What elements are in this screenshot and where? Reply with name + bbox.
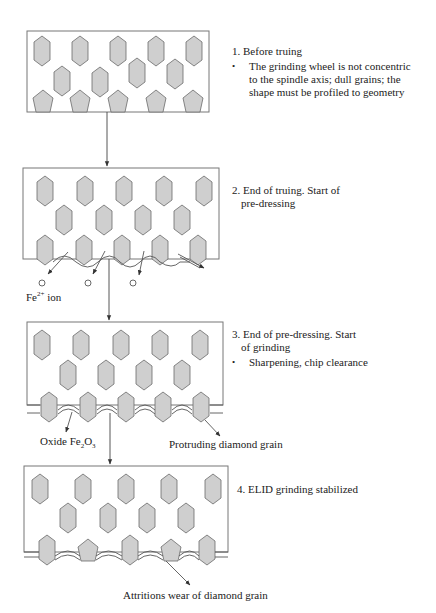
diamond-grain-hexagon bbox=[167, 59, 183, 89]
diamond-grain-hexagon bbox=[73, 330, 89, 360]
step-2-title: End of truing. Start of bbox=[243, 184, 340, 196]
diamond-grain-hexagon bbox=[192, 330, 208, 360]
diamond-grain-hexagon bbox=[152, 235, 168, 265]
diamond-grain-pentagon bbox=[70, 90, 90, 112]
step-3-bullet: Sharpening, chip clearance bbox=[232, 356, 432, 369]
diamond-grain-hexagon bbox=[41, 392, 57, 422]
diamond-grain-hexagon bbox=[77, 176, 93, 206]
step-1-description: 1. Before truing The grinding wheel is n… bbox=[232, 45, 432, 99]
diamond-grain-hexagon bbox=[80, 392, 96, 422]
diamond-grain-hexagon bbox=[196, 176, 212, 206]
diamond-grain-pentagon bbox=[183, 90, 203, 112]
diamond-grain-hexagon bbox=[92, 67, 108, 97]
diamond-grain-hexagon bbox=[56, 205, 72, 235]
wheel-box-1 bbox=[27, 31, 209, 112]
wheel-box-4 bbox=[24, 466, 228, 565]
diamond-grain-hexagon bbox=[139, 503, 155, 533]
diamond-grain-hexagon bbox=[100, 503, 116, 533]
diamond-grain-hexagon bbox=[136, 360, 152, 390]
fe-ion-circle bbox=[39, 280, 45, 286]
diamond-grain-hexagon bbox=[34, 36, 50, 66]
diamond-grain-hexagon bbox=[76, 235, 92, 265]
protruding-grain-pointer-arrow bbox=[205, 420, 220, 436]
protruding-grain-label: Protruding diamond grain bbox=[169, 438, 283, 451]
step-1-number: 1. bbox=[232, 45, 240, 57]
wheel-box-2 bbox=[23, 168, 219, 265]
diamond-grain-hexagon bbox=[135, 205, 151, 235]
diamond-grain-hexagon bbox=[75, 474, 91, 504]
diamond-grain-hexagon bbox=[193, 392, 209, 422]
diamond-grain-hexagon bbox=[148, 36, 164, 66]
step-3-title: End of pre-dressing. Start bbox=[243, 328, 356, 340]
diamond-grain-hexagon bbox=[178, 503, 194, 533]
diamond-grain-hexagon bbox=[129, 58, 145, 88]
step-1-title: Before truing bbox=[243, 45, 302, 57]
diamond-grain-pentagon bbox=[33, 90, 53, 112]
diamond-grain-hexagon bbox=[60, 360, 76, 390]
diamond-grain-pentagon bbox=[108, 90, 128, 112]
diamond-grain-hexagon bbox=[205, 474, 221, 504]
diamond-grain-hexagon bbox=[60, 503, 76, 533]
step-4-description: 4. ELID grinding stabilized bbox=[237, 483, 427, 496]
step-2-number: 2. bbox=[232, 184, 240, 196]
diamond-grain-pentagon bbox=[78, 539, 98, 561]
diamond-grain-hexagon bbox=[34, 330, 50, 360]
diamond-grain-hexagon bbox=[116, 176, 132, 206]
diamond-grain-hexagon bbox=[72, 36, 88, 66]
diamond-grain-hexagon bbox=[199, 535, 215, 565]
attrition-pointer-arrow bbox=[166, 561, 190, 585]
ion-release-arrow bbox=[139, 251, 144, 275]
diamond-grain-hexagon bbox=[113, 330, 129, 360]
diamond-grain-hexagon bbox=[174, 360, 190, 390]
diamond-grain-hexagon bbox=[54, 66, 70, 96]
oxide-label: Oxide Fe2O3 bbox=[40, 435, 96, 448]
diamond-grain-hexagon bbox=[118, 474, 134, 504]
step-3-title-continued: of grinding bbox=[232, 341, 432, 354]
diamond-grain-pentagon bbox=[161, 539, 181, 561]
fe-ion-circle bbox=[130, 280, 136, 286]
diamond-grain-hexagon bbox=[37, 235, 53, 265]
fe-ions bbox=[39, 280, 136, 286]
diamond-grain-hexagon bbox=[161, 474, 177, 504]
step-2-title-continued: pre-dressing bbox=[232, 197, 432, 210]
fe-ion-label: Fe2+ ion bbox=[26, 291, 61, 304]
diamond-grain-hexagon bbox=[174, 205, 190, 235]
step-3-number: 3. bbox=[232, 328, 240, 340]
diamond-grain-hexagon bbox=[118, 392, 134, 422]
diamond-grain-hexagon bbox=[96, 205, 112, 235]
diamond-grain-pentagon bbox=[146, 90, 166, 112]
step-4-title: ELID grinding stabilized bbox=[248, 483, 358, 495]
attrition-wear-label: Attritions wear of diamond grain bbox=[123, 589, 268, 602]
diamond-grain-hexagon bbox=[122, 535, 138, 565]
oxide-pointer-arrow bbox=[66, 412, 72, 432]
step-2-description: 2. End of truing. Start of pre-dressing bbox=[232, 184, 432, 210]
step-4-number: 4. bbox=[237, 483, 245, 495]
diamond-grain-hexagon bbox=[155, 392, 171, 422]
flow-arrows bbox=[107, 112, 110, 464]
diamond-grain-hexagon bbox=[39, 535, 55, 565]
diamond-grain-hexagon bbox=[114, 235, 130, 265]
diamond-grain-hexagon bbox=[156, 176, 172, 206]
diamond-grain-hexagon bbox=[190, 235, 206, 265]
fe-ion-circle bbox=[85, 280, 91, 286]
diamond-grain-hexagon bbox=[32, 474, 48, 504]
step-1-bullet: The grinding wheel is not concentric to … bbox=[232, 60, 432, 99]
diamond-grain-hexagon bbox=[110, 36, 126, 66]
step-3-description: 3. End of pre-dressing. Start of grindin… bbox=[232, 328, 432, 369]
ion-release-arrow bbox=[93, 251, 105, 274]
wheel-box-3 bbox=[27, 322, 223, 422]
diamond-grain-hexagon bbox=[37, 176, 53, 206]
diamond-grain-hexagon bbox=[98, 360, 114, 390]
diamond-grain-hexagon bbox=[186, 36, 202, 66]
diamond-grain-hexagon bbox=[152, 330, 168, 360]
